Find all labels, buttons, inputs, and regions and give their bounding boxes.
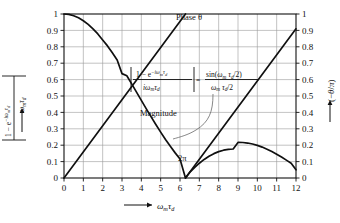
y-left-tick-label: 0.2 [47,140,58,150]
y-left-tick-label: 0 [54,173,59,183]
equation-rhs-denominator: ωm τd/2 [211,83,233,93]
y-left-den-sub-d: d [21,97,27,100]
x-tick-label: 10 [253,183,263,193]
figure-container: 0123456789101112 00.10.20.30.40.50.60.70… [0,0,340,223]
y-right-tick-label: 0.1 [302,157,313,167]
y-axis-left-tick-labels: 00.10.20.30.40.50.60.70.80.91 [47,9,59,183]
y-left-tick-label: 1 [54,9,59,19]
x-tick-label: 1 [81,183,86,193]
y-right-tick-label: 1 [302,9,307,19]
phase-annotation-label: Phase θ [176,12,202,22]
y-right-close: ) [326,79,336,82]
x-tick-label: 11 [272,183,281,193]
magnitude-annotation-label: Magnitude [140,108,177,118]
y-right-tick-label: 0.3 [302,124,314,134]
y-right-tick-label: 0.2 [302,140,313,150]
equation-equals-sign: = [196,76,200,85]
y-right-tick-label: 0.7 [302,58,314,68]
y-right-tick-label: 0.5 [302,91,314,101]
y-right-tick-label: 0.8 [302,42,314,52]
y-left-tick-label: 0.9 [47,26,59,36]
x-tick-label: 9 [236,183,241,193]
sinc-magnitude-phase-chart: 0123456789101112 00.10.20.30.40.50.60.70… [0,0,340,223]
x-tick-label: 2 [100,183,105,193]
y-left-tick-label: 0.7 [47,58,59,68]
x-tick-label: 4 [139,183,144,193]
y-left-tick-label: 0.6 [47,75,59,85]
y-left-tick-label: 0.1 [47,157,58,167]
y-left-tick-label: 0.5 [47,91,59,101]
y-axis-right-title-group: (−θ/π) [326,79,336,102]
x-tick-label: 12 [292,183,301,193]
x-tick-label: 0 [62,183,67,193]
y-left-tick-label: 0.3 [47,124,59,134]
x-tick-label: 3 [120,183,125,193]
x-tick-label: 5 [158,183,163,193]
y-left-num-exp: −iω [3,113,9,122]
x-tick-label: 6 [178,183,183,193]
y-left-tick-label: 0.4 [47,108,59,118]
y-right-tick-label: 0.4 [302,108,314,118]
y-right-tick-label: 0.6 [302,75,314,85]
x-tick-label: 8 [216,183,221,193]
y-right-title: (−θ/π) [326,79,336,102]
y-right-tick-label: 0 [302,173,307,183]
y-left-tick-label: 0.8 [47,42,59,52]
two-pi-annotation-label: 2π [178,153,187,163]
y-right-tick-label: 0.9 [302,26,314,36]
y-axis-right-tick-labels: 00.10.20.30.40.50.60.70.80.91 [302,9,314,183]
x-tick-label: 7 [197,183,202,193]
